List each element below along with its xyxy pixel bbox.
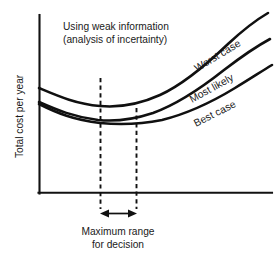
cost-uncertainty-chart: Using weak information (analysis of ince… <box>0 0 274 260</box>
curve-label-worst-case: Worst case <box>192 38 242 74</box>
title-line-2: (analysis of incertainty) <box>63 34 167 45</box>
range-annotation-text: Maximum range for decision <box>81 226 154 250</box>
chart-title-block: Using weak information (analysis of ince… <box>63 21 169 45</box>
range-label-line-2: for decision <box>92 239 144 250</box>
arrow-head-right <box>128 210 137 218</box>
figure-container: Using weak information (analysis of ince… <box>0 0 274 260</box>
title-line-1: Using weak information <box>63 21 169 32</box>
range-guides <box>101 78 137 209</box>
range-label-line-1: Maximum range <box>81 226 154 237</box>
y-axis-label: Total cost per year <box>14 74 25 158</box>
arrow-head-left <box>100 210 109 218</box>
curve-label-best-case: Best case <box>192 98 238 129</box>
maximum-range-arrow <box>100 210 137 218</box>
